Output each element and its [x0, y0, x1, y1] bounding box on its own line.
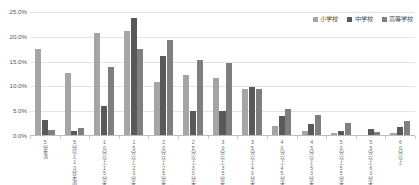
y-tick-label-4: 20.0%	[9, 34, 27, 40]
y-tick-label-2: 10.0%	[9, 83, 27, 89]
bar-1[interactable]	[249, 87, 255, 136]
legend-item-1[interactable]: 中学校	[347, 16, 373, 22]
legend-swatch-icon-1	[347, 17, 352, 22]
bar-1[interactable]	[42, 120, 48, 136]
bar-group	[297, 12, 327, 136]
y-tick-label-3: 15.0%	[9, 58, 27, 64]
x-tick-label-5: 25分以上30分未満	[190, 139, 195, 185]
bar-1[interactable]	[160, 56, 166, 136]
bar-1[interactable]	[279, 116, 285, 136]
bar-0[interactable]	[65, 73, 71, 136]
plot-area	[30, 12, 415, 136]
x-tick-label-3: 15分以上20分未満	[131, 139, 136, 185]
bar-group	[119, 12, 149, 136]
legend-label-1: 中学校	[355, 16, 373, 22]
bar-1[interactable]	[190, 111, 196, 136]
legend-item-2[interactable]: 高等学校	[382, 16, 414, 22]
x-tick-label-12: 60分以上	[397, 139, 402, 165]
legend-label-2: 高等学校	[389, 16, 413, 22]
chart-legend: 小学校 中学校 高等学校	[313, 16, 414, 22]
x-tick-label-0: 5分未満	[42, 139, 47, 159]
legend-label-0: 小学校	[320, 16, 338, 22]
bar-group	[326, 12, 356, 136]
x-axis-labels: 5分未満5分以上10分未満10分以上15分未満15分以上20分未満20分以上25…	[30, 139, 415, 185]
x-tick-mark	[415, 136, 416, 139]
x-tick-label-4: 20分以上25分未満	[160, 139, 165, 185]
x-axis-line	[30, 135, 415, 136]
y-tick-label-1: 5.0%	[13, 108, 27, 114]
x-tick-label-11: 55分以上60分未満	[368, 139, 373, 185]
x-tick-label-1: 5分以上10分未満	[71, 139, 76, 184]
x-tick-label-10: 50分以上55分未満	[338, 139, 343, 185]
bar-2[interactable]	[108, 67, 114, 136]
bar-2[interactable]	[167, 40, 173, 136]
bar-group	[356, 12, 386, 136]
x-tick-label-7: 35分以上40分未満	[249, 139, 254, 185]
bar-0[interactable]	[213, 78, 219, 136]
bar-group	[385, 12, 415, 136]
bar-1[interactable]	[131, 18, 137, 136]
bar-group	[267, 12, 297, 136]
y-axis-labels: 0.0%5.0%10.0%15.0%20.0%25.0%	[0, 12, 27, 136]
bar-group	[148, 12, 178, 136]
x-tick-label-8: 40分以上45分未満	[279, 139, 284, 185]
bar-group	[89, 12, 119, 136]
bar-group	[208, 12, 238, 136]
bar-1[interactable]	[101, 106, 107, 136]
bar-2[interactable]	[256, 89, 262, 136]
legend-swatch-icon-0	[313, 17, 318, 22]
bar-2[interactable]	[404, 121, 410, 136]
bar-0[interactable]	[154, 82, 160, 136]
bar-2[interactable]	[226, 63, 232, 136]
bar-0[interactable]	[94, 33, 100, 136]
bar-2[interactable]	[197, 60, 203, 136]
bar-group	[178, 12, 208, 136]
bar-0[interactable]	[242, 89, 248, 136]
bar-2[interactable]	[285, 109, 291, 136]
x-tick-label-2: 10分以上15分未満	[101, 139, 106, 185]
y-tick-label-0: 0.0%	[13, 133, 27, 139]
bar-0[interactable]	[124, 31, 130, 136]
bar-0[interactable]	[183, 75, 189, 136]
bar-group	[237, 12, 267, 136]
y-tick-label-5: 25.0%	[9, 9, 27, 15]
bar-group	[30, 12, 60, 136]
bar-chart: 小学校 中学校 高等学校 0.0%5.0%10.0%15.0%20.0%25.0…	[0, 0, 419, 185]
bar-0[interactable]	[35, 49, 41, 136]
x-tick-label-6: 30分以上35分未満	[220, 139, 225, 185]
bars-layer	[30, 12, 415, 136]
x-tick-label-9: 45分以上50分未満	[308, 139, 313, 185]
bar-group	[60, 12, 90, 136]
legend-item-0[interactable]: 小学校	[313, 16, 339, 22]
bar-2[interactable]	[137, 49, 143, 136]
bar-1[interactable]	[219, 111, 225, 136]
legend-swatch-icon-2	[382, 17, 387, 22]
bar-2[interactable]	[315, 115, 321, 136]
